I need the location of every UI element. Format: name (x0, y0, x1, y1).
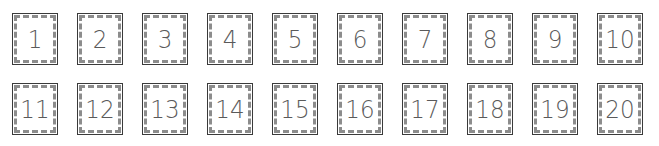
number-label: 16 (345, 97, 374, 122)
number-label: 20 (605, 97, 634, 122)
number-card-12: 12 (77, 83, 123, 135)
number-card-11: 11 (12, 83, 58, 135)
number-card-1: 1 (12, 13, 58, 65)
number-label: 3 (158, 27, 173, 52)
number-label: 11 (20, 97, 49, 122)
number-card-17: 17 (402, 83, 448, 135)
number-label: 2 (93, 27, 108, 52)
number-label: 1 (28, 27, 43, 52)
number-label: 17 (410, 97, 439, 122)
number-card-5: 5 (272, 13, 318, 65)
number-card-19: 19 (532, 83, 578, 135)
number-card-6: 6 (337, 13, 383, 65)
number-label: 9 (548, 27, 563, 52)
number-card-13: 13 (142, 83, 188, 135)
number-card-grid: 1 2 3 4 5 6 7 8 9 10 11 12 13 14 15 16 1… (12, 13, 643, 135)
number-label: 14 (215, 97, 244, 122)
number-label: 6 (353, 27, 368, 52)
number-card-14: 14 (207, 83, 253, 135)
number-card-10: 10 (597, 13, 643, 65)
number-card-16: 16 (337, 83, 383, 135)
number-card-18: 18 (467, 83, 513, 135)
number-label: 15 (280, 97, 309, 122)
number-label: 5 (288, 27, 303, 52)
number-card-4: 4 (207, 13, 253, 65)
number-card-7: 7 (402, 13, 448, 65)
number-label: 13 (150, 97, 179, 122)
number-card-8: 8 (467, 13, 513, 65)
number-label: 8 (483, 27, 498, 52)
number-label: 7 (418, 27, 433, 52)
number-card-20: 20 (597, 83, 643, 135)
number-card-15: 15 (272, 83, 318, 135)
number-label: 4 (223, 27, 238, 52)
number-label: 12 (85, 97, 114, 122)
number-card-2: 2 (77, 13, 123, 65)
number-label: 18 (475, 97, 504, 122)
number-card-9: 9 (532, 13, 578, 65)
number-card-3: 3 (142, 13, 188, 65)
number-label: 19 (540, 97, 569, 122)
number-label: 10 (605, 27, 634, 52)
